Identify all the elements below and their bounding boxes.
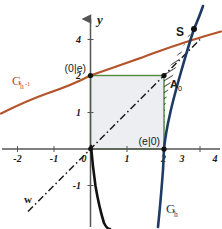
- y-axis-label: y: [95, 12, 103, 27]
- curve-label-inverse-group: G h -1: [12, 73, 30, 91]
- xtick-1: 1: [125, 153, 130, 164]
- xtick-3: 3: [179, 153, 185, 164]
- xtick-4: 4: [212, 153, 218, 164]
- ytick--1: -1: [73, 180, 81, 191]
- point-e-0-dot: [161, 146, 166, 151]
- point-S-dot: [191, 26, 197, 32]
- xtick--1: -1: [50, 153, 58, 164]
- point-e-e-dot: [161, 73, 166, 78]
- point-0-e-dot: [88, 73, 93, 78]
- intersection-label-S: S: [176, 25, 184, 39]
- curve-label-direct-sub: h: [174, 210, 178, 219]
- curve-label-inverse-sub: h: [20, 82, 24, 91]
- curve-black-branch: [91, 146, 110, 229]
- xtick--2: -2: [13, 153, 21, 164]
- curve-label-direct-group: G h: [166, 201, 178, 219]
- ytick-1: 1: [76, 107, 81, 118]
- ytick-4: 4: [75, 34, 81, 45]
- math-diagram-svg: -2 -1 0 1 2 3 4 -1 1 2 4 y (0|e) (e|0) S…: [0, 0, 222, 229]
- area-label-A: A: [170, 78, 178, 90]
- figure-canvas: -2 -1 0 1 2 3 4 -1 1 2 4 y (0|e) (e|0) S…: [0, 0, 222, 229]
- point-label-e0: (e|0): [139, 135, 160, 147]
- point-origin-dot: [88, 147, 93, 152]
- area-label-A-sub: 0: [178, 84, 182, 93]
- bisector-label-w: w: [24, 193, 32, 205]
- xtick-0: 0: [82, 153, 87, 164]
- bisector-line-w: [28, 40, 200, 212]
- point-label-0e: (0|e): [65, 62, 86, 74]
- curve-label-inverse-sup: -1: [25, 81, 30, 87]
